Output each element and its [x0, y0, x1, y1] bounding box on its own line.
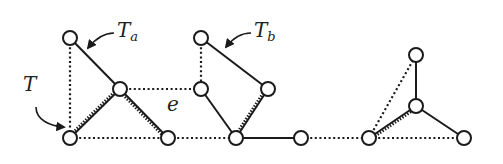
edge-B-C-hatched — [69, 88, 120, 138]
node-D — [161, 131, 175, 145]
node-E — [194, 31, 208, 45]
label-T: T — [23, 74, 36, 94]
edge-B-D-hatched — [119, 89, 168, 139]
node-K — [409, 48, 423, 62]
edge-J-K-dotted — [369, 55, 416, 138]
nodes-layer — [63, 31, 471, 145]
node-A — [63, 31, 77, 45]
diagram-canvas: T Ta Tb e — [0, 0, 503, 164]
label-Ta: Ta — [117, 20, 138, 43]
node-J — [362, 131, 376, 145]
edge-E-G-solid — [201, 38, 268, 89]
Ta-pointer-arrow-icon — [88, 33, 114, 48]
edge-A-B-solid — [70, 38, 120, 89]
node-B — [113, 82, 127, 96]
node-I — [294, 131, 308, 145]
T-pointer-arrow-icon — [36, 107, 64, 127]
Tb-pointer-arrow-icon — [226, 33, 251, 47]
edge-L-M-solid — [416, 106, 464, 138]
label-e: e — [167, 94, 179, 114]
node-H — [229, 131, 243, 145]
node-L — [409, 99, 423, 113]
node-F — [194, 82, 208, 96]
node-C — [63, 131, 77, 145]
edge-G-H-hatched — [234, 88, 268, 138]
graph-svg — [0, 0, 503, 164]
node-G — [261, 82, 275, 96]
label-Tb: Tb — [254, 20, 276, 43]
edge-F-H-solid — [201, 89, 236, 138]
node-M — [457, 131, 471, 145]
